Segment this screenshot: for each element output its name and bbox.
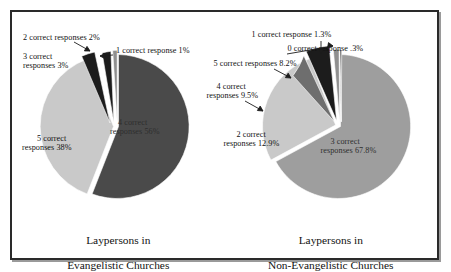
caption-evangelistic-line1: Laypersons in [12, 234, 225, 247]
caption-non-evangelistic-line1: Laypersons in [225, 234, 438, 247]
chart-panel-non-evangelistic: 1 correct response 1.3% 0 correct respon… [225, 12, 438, 258]
caption-non-evangelistic: Laypersons in Non-Evangelistic Churches [225, 221, 438, 272]
caption-evangelistic: Laypersons in Evangelistic Churches [12, 221, 225, 272]
caption-non-evangelistic-line2: Non-Evangelistic Churches [225, 259, 438, 272]
figure-frame: 2 correct responses 2% 3 correct respons… [10, 10, 439, 260]
chart-panel-evangelistic: 2 correct responses 2% 3 correct respons… [12, 12, 225, 258]
caption-evangelistic-line2: Evangelistic Churches [12, 259, 225, 272]
